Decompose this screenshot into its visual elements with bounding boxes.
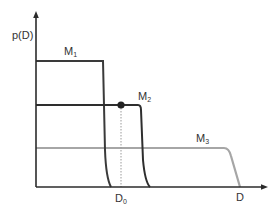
m2-label-base: M <box>138 90 147 102</box>
m3-label: M3 <box>196 133 209 145</box>
m1-label-base: M <box>64 45 73 57</box>
m3-label-base: M <box>196 132 205 144</box>
m3-label-sub: 3 <box>205 138 209 145</box>
series-m1-curve <box>36 61 111 187</box>
m2-label-sub: 2 <box>147 96 151 103</box>
d0-label: D0 <box>115 193 127 205</box>
d0-label-base: D <box>115 192 123 204</box>
y-axis-arrow-icon <box>33 11 39 18</box>
d0-label-sub: 0 <box>123 198 127 205</box>
m1-label-sub: 1 <box>73 51 77 58</box>
m2-label: M2 <box>138 91 151 103</box>
series-m3-curve <box>36 148 240 187</box>
m1-label: M1 <box>64 46 77 58</box>
x-axis-arrow-icon <box>261 184 268 190</box>
series-m2-curve <box>36 105 150 187</box>
d0-marker-point <box>117 101 124 108</box>
chart-canvas <box>0 0 280 212</box>
x-axis-label: D <box>236 192 244 203</box>
y-axis-label: p(D) <box>12 30 33 41</box>
